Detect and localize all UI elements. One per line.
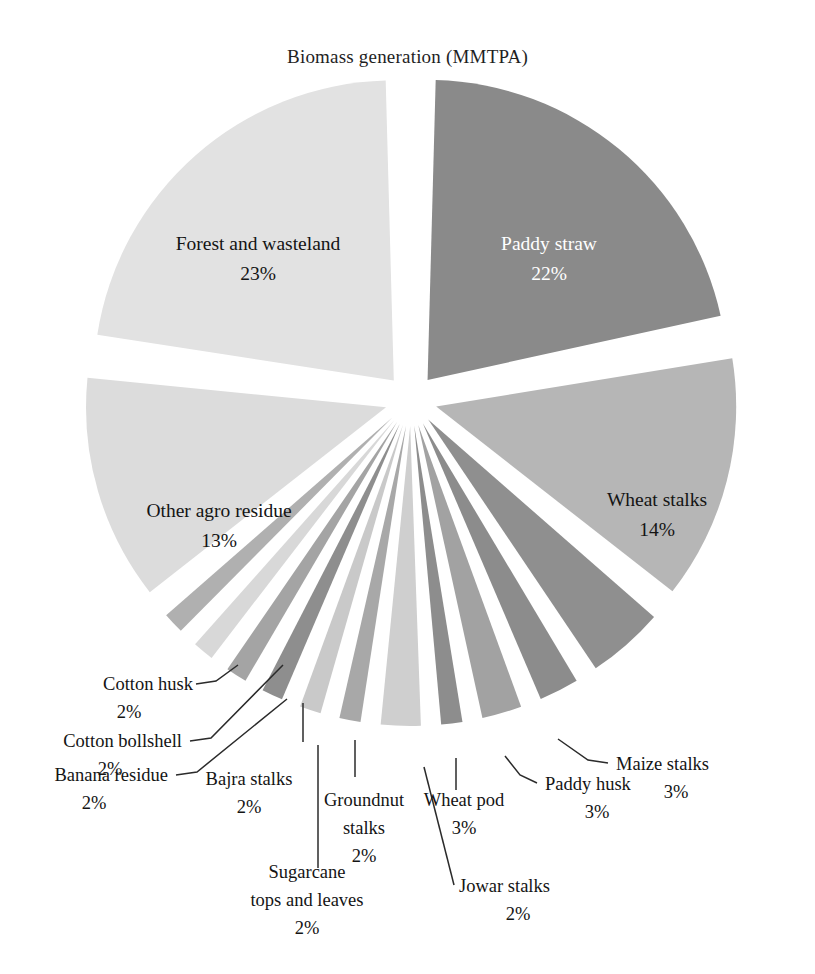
label-other-agro-residue-pct: 13% bbox=[201, 530, 237, 551]
callout-sugarcane-line2: tops and leaves bbox=[250, 890, 363, 910]
slice-forest-and-wasteland[interactable] bbox=[97, 81, 394, 381]
callout-wheat-pod-pct: 3% bbox=[452, 818, 477, 838]
callout-groundnut-line2: stalks bbox=[343, 818, 385, 838]
callout-maize-stalks: Maize stalks bbox=[616, 754, 709, 774]
callout-cotton-husk: Cotton husk bbox=[103, 674, 194, 694]
label-wheat-stalks-pct: 14% bbox=[639, 519, 675, 540]
leader-line-maize-stalks bbox=[558, 739, 608, 763]
label-wheat-stalks: Wheat stalks bbox=[607, 489, 707, 510]
label-forest-and-wasteland-pct: 23% bbox=[240, 263, 276, 284]
label-paddy-straw: Paddy straw bbox=[501, 233, 597, 254]
callout-paddy-husk: Paddy husk bbox=[545, 774, 632, 794]
label-cotton-stalks-line1: Cotton bbox=[627, 638, 675, 658]
callout-jowar-stalks: Jowar stalks bbox=[459, 876, 550, 896]
callout-cotton-bollshell: Cotton bollshell bbox=[63, 731, 182, 751]
label-cotton-stalks-pct: 5% bbox=[639, 688, 662, 708]
callout-jowar-stalks-pct: 2% bbox=[506, 904, 531, 924]
label-cotton-stalks-line2: stalks bbox=[631, 663, 671, 683]
callout-groundnut-line1: Groundnut bbox=[324, 790, 405, 810]
pie-slices bbox=[86, 80, 736, 726]
callout-banana-residue-pct: 2% bbox=[82, 793, 107, 813]
leader-line-paddy-husk bbox=[505, 756, 537, 783]
callout-wheat-pod: Wheat pod bbox=[424, 790, 505, 810]
pie-chart-figure: Biomass generation (MMTPA) bbox=[0, 0, 815, 974]
callout-bajra-stalks: Bajra stalks bbox=[206, 769, 293, 789]
label-forest-and-wasteland: Forest and wasteland bbox=[176, 233, 341, 254]
callout-cotton-husk-pct: 2% bbox=[117, 702, 142, 722]
label-paddy-straw-pct: 22% bbox=[531, 263, 567, 284]
callout-paddy-husk-pct: 3% bbox=[585, 802, 610, 822]
slice-paddy-straw[interactable] bbox=[428, 80, 721, 380]
callout-bajra-stalks-pct: 2% bbox=[237, 797, 262, 817]
leader-line-cotton-bollshell bbox=[190, 665, 283, 741]
leader-line-banana-residue bbox=[176, 699, 287, 775]
pie-chart-canvas: Paddy straw 22% Forest and wasteland 23%… bbox=[0, 0, 815, 974]
callout-maize-stalks-pct: 3% bbox=[664, 782, 689, 802]
callout-sugarcane-pct: 2% bbox=[295, 918, 320, 938]
label-other-agro-residue: Other agro residue bbox=[146, 500, 291, 521]
callout-groundnut-pct: 2% bbox=[352, 846, 377, 866]
callout-sugarcane-line1: Sugarcane bbox=[268, 862, 345, 882]
leader-line-jowar-stalks bbox=[424, 767, 454, 885]
callout-banana-residue: Banana residue bbox=[54, 765, 168, 785]
